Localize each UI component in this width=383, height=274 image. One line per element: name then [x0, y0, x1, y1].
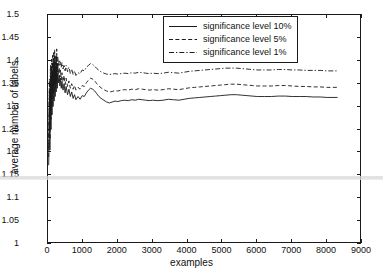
y-axis-title: average number of labels	[9, 38, 20, 198]
x-tick	[361, 239, 362, 243]
x-tick	[291, 239, 292, 243]
y-tick	[357, 220, 361, 221]
y-tick	[47, 106, 51, 107]
x-tick	[256, 239, 257, 243]
x-tick	[326, 239, 327, 243]
y-tick	[357, 37, 361, 38]
y-tick	[47, 220, 51, 221]
y-tick-label: 1.05	[0, 215, 19, 225]
x-tick	[152, 239, 153, 243]
y-tick	[47, 60, 51, 61]
x-tick	[361, 14, 362, 18]
y-tick	[357, 151, 361, 152]
y-tick	[47, 243, 51, 244]
y-tick	[357, 174, 361, 175]
x-tick	[221, 239, 222, 243]
legend-line-sample	[168, 21, 198, 32]
x-tick	[82, 239, 83, 243]
y-tick	[357, 197, 361, 198]
legend-line-sample	[168, 47, 198, 58]
x-tick	[326, 14, 327, 18]
x-tick-label: 9000	[341, 245, 381, 255]
y-tick	[357, 60, 361, 61]
x-tick	[82, 14, 83, 18]
y-tick-label: 1	[0, 238, 19, 248]
figure-canvas: 0100020003000400050006000700080009000 11…	[0, 0, 383, 274]
y-tick-label: 1.5	[0, 9, 19, 19]
legend-label: significance level 10%	[203, 21, 292, 32]
legend-label: significance level 5%	[203, 34, 287, 45]
x-axis-title: examples	[0, 257, 383, 268]
legend-entry-1: significance level 5%	[168, 33, 292, 46]
y-tick	[47, 129, 51, 130]
y-tick	[47, 14, 51, 15]
y-tick	[357, 106, 361, 107]
legend-label: significance level 1%	[203, 47, 287, 58]
legend-box: significance level 10%significance level…	[163, 16, 298, 63]
legend-entry-0: significance level 10%	[168, 20, 292, 33]
y-tick	[357, 243, 361, 244]
y-tick	[47, 197, 51, 198]
y-tick	[357, 14, 361, 15]
y-tick	[47, 151, 51, 152]
x-tick	[117, 239, 118, 243]
y-tick	[47, 174, 51, 175]
y-tick	[47, 83, 51, 84]
y-tick	[357, 129, 361, 130]
x-tick	[187, 239, 188, 243]
legend-entry-2: significance level 1%	[168, 46, 292, 59]
legend-line-sample	[168, 34, 198, 45]
y-tick	[357, 83, 361, 84]
x-tick	[117, 14, 118, 18]
y-tick	[47, 37, 51, 38]
x-tick	[152, 14, 153, 18]
